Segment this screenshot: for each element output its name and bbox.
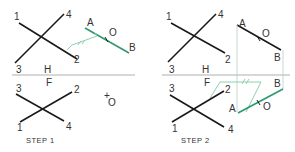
label-B: B	[129, 42, 136, 53]
label-O: O	[108, 97, 116, 108]
label-3: 3	[16, 83, 22, 94]
line-3-4-front	[170, 95, 224, 127]
line-3-4-top	[168, 14, 216, 62]
construction-line	[67, 33, 97, 50]
label-O: O	[262, 28, 270, 39]
label-A: A	[87, 17, 94, 28]
line-1-2-front	[20, 92, 72, 122]
label-4: 4	[66, 121, 72, 132]
fold-label-F: F	[46, 77, 52, 88]
line-1-2-front	[172, 91, 224, 122]
line-3-4-top	[15, 14, 64, 63]
label-O: O	[263, 101, 271, 112]
label-2: 2	[74, 54, 80, 65]
label-B: B	[274, 78, 281, 89]
label-2: 2	[225, 84, 231, 95]
step-2-panel: 1 2 3 4 A B O H F 3 2 1 4 A B O STEP 2	[162, 9, 290, 145]
label-B: B	[274, 52, 281, 63]
label-3: 3	[169, 64, 175, 75]
descriptive-geometry-diagram: 1 2 3 4 A B O H F 3 2 1 4 + O STEP 1 1 2…	[0, 0, 295, 152]
label-1: 1	[172, 123, 178, 134]
label-4: 4	[66, 9, 72, 20]
label-2: 2	[225, 54, 231, 65]
label-O: O	[109, 27, 117, 38]
caption-step-1: STEP 1	[26, 136, 55, 145]
line-3-4-front	[16, 94, 64, 121]
label-A: A	[239, 18, 246, 29]
label-1: 1	[17, 122, 23, 133]
label-1: 1	[14, 11, 20, 22]
line-AB-front	[238, 89, 283, 113]
fold-label-H: H	[202, 64, 209, 75]
label-3: 3	[16, 64, 22, 75]
fold-label-F: F	[204, 77, 210, 88]
label-4: 4	[228, 124, 234, 135]
label-4: 4	[218, 9, 224, 20]
line-1-2-top	[19, 23, 77, 59]
caption-step-2: STEP 2	[181, 136, 210, 145]
step-1-panel: 1 2 3 4 A B O H F 3 2 1 4 + O STEP 1	[12, 9, 136, 145]
label-3: 3	[169, 83, 175, 94]
fold-label-H: H	[44, 64, 51, 75]
label-A: A	[229, 103, 236, 114]
line-1-2-top	[171, 23, 225, 53]
label-1: 1	[166, 11, 172, 22]
label-2: 2	[74, 84, 80, 95]
